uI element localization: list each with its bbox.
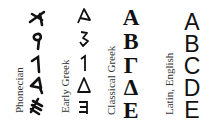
column-label-latin-english: Latin, English bbox=[163, 53, 175, 115]
column-label-classical-greek: Classical Greek bbox=[105, 46, 117, 115]
glyph-early-greek-alpha bbox=[72, 6, 96, 26]
glyph-early-greek-epsilon bbox=[72, 97, 96, 117]
glyph-classical-delta: Δ bbox=[119, 78, 143, 98]
column-early-greek bbox=[72, 0, 96, 127]
glyph-early-greek-beta bbox=[72, 29, 96, 49]
column-phoenician bbox=[25, 0, 49, 127]
glyph-classical-gamma: Γ bbox=[119, 56, 143, 76]
column-latin-english: A B C D E bbox=[180, 0, 204, 127]
glyph-phoenician-daleth bbox=[25, 75, 49, 95]
column-label-early-greek: Early Greek bbox=[59, 60, 71, 113]
glyph-classical-alpha: Α bbox=[119, 8, 143, 28]
glyph-phoenician-aleph bbox=[25, 8, 49, 28]
glyph-classical-beta: Β bbox=[119, 32, 143, 52]
glyph-phoenician-gimel bbox=[25, 54, 49, 74]
glyph-early-greek-gamma bbox=[72, 53, 96, 73]
glyph-latin-c: C bbox=[180, 56, 204, 76]
glyph-latin-b: B bbox=[180, 34, 204, 54]
glyph-early-greek-delta bbox=[72, 75, 96, 95]
column-classical-greek: Α Β Γ Δ Ε bbox=[119, 0, 143, 127]
glyph-latin-a: A bbox=[180, 12, 204, 32]
glyph-classical-epsilon: Ε bbox=[119, 101, 143, 121]
glyph-latin-e: E bbox=[180, 100, 204, 120]
glyph-phoenician-he bbox=[25, 96, 49, 116]
glyph-phoenician-beth bbox=[25, 31, 49, 51]
glyph-latin-d: D bbox=[180, 78, 204, 98]
column-label-phoenician: Phonecian bbox=[13, 67, 25, 113]
